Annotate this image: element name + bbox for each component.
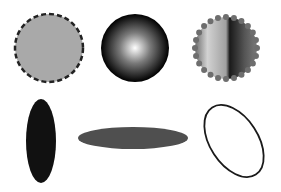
dotted-linear-gradient-circle: [195, 17, 257, 79]
rotated-outline-ellipse: [192, 94, 276, 187]
radial-gradient-sphere: [101, 14, 169, 82]
vertical-black-ellipse: [26, 99, 56, 183]
horizontal-gray-ellipse: [78, 127, 188, 149]
shapes-canvas: [0, 0, 281, 192]
dashed-gray-circle: [15, 14, 83, 82]
